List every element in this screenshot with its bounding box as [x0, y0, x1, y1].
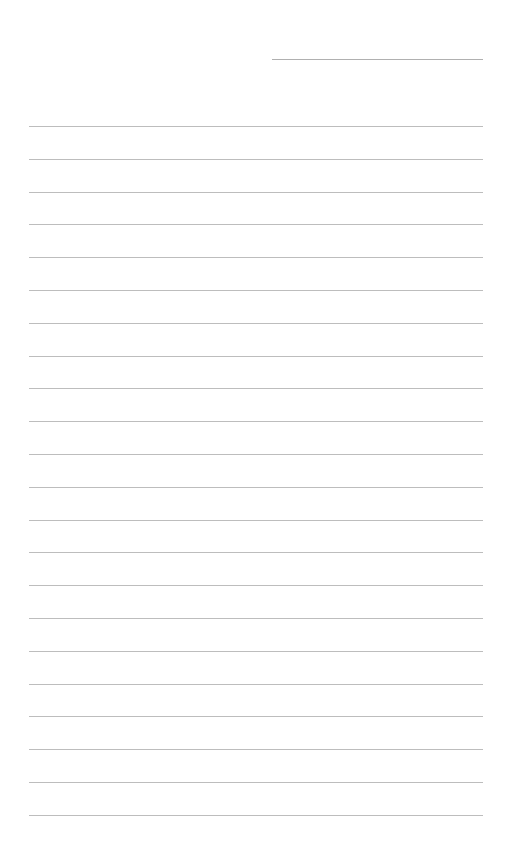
ruled-line — [29, 388, 483, 389]
ruled-line — [29, 421, 483, 422]
ruled-line — [29, 749, 483, 750]
ruled-line — [29, 782, 483, 783]
ruled-line — [29, 815, 483, 816]
date-line — [272, 59, 483, 60]
ruled-line — [29, 618, 483, 619]
ruled-line — [29, 192, 483, 193]
ruled-line — [29, 290, 483, 291]
ruled-line — [29, 454, 483, 455]
ruled-line — [29, 716, 483, 717]
ruled-line — [29, 520, 483, 521]
ruled-line — [29, 257, 483, 258]
ruled-line — [29, 585, 483, 586]
ruled-line — [29, 552, 483, 553]
ruled-line — [29, 487, 483, 488]
ruled-line — [29, 323, 483, 324]
ruled-line — [29, 224, 483, 225]
ruled-line — [29, 126, 483, 127]
ruled-line — [29, 651, 483, 652]
ruled-line — [29, 684, 483, 685]
ruled-line — [29, 159, 483, 160]
ruled-line — [29, 356, 483, 357]
